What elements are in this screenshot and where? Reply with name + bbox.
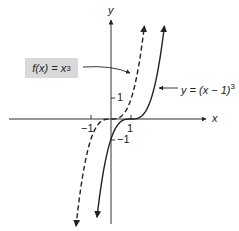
cubic-graph <box>0 0 239 231</box>
x-axis-label: x <box>212 113 218 124</box>
g-label-text: y = (x − 1) <box>181 84 231 96</box>
y-axis-label: y <box>108 5 114 16</box>
g-label-exponent: 3 <box>231 82 235 91</box>
g-label: y = (x − 1)3 <box>181 83 235 96</box>
f-label-box: f(x) = x3 <box>25 58 78 78</box>
f-label-text: f(x) = x <box>32 62 66 74</box>
y-tick-label-neg1: −1 <box>117 134 130 145</box>
y-tick-label-1: 1 <box>117 92 123 103</box>
f-label-exponent: 3 <box>66 64 70 73</box>
f-label-arrow <box>83 67 130 73</box>
x-tick-label-neg1: −1 <box>81 123 94 134</box>
